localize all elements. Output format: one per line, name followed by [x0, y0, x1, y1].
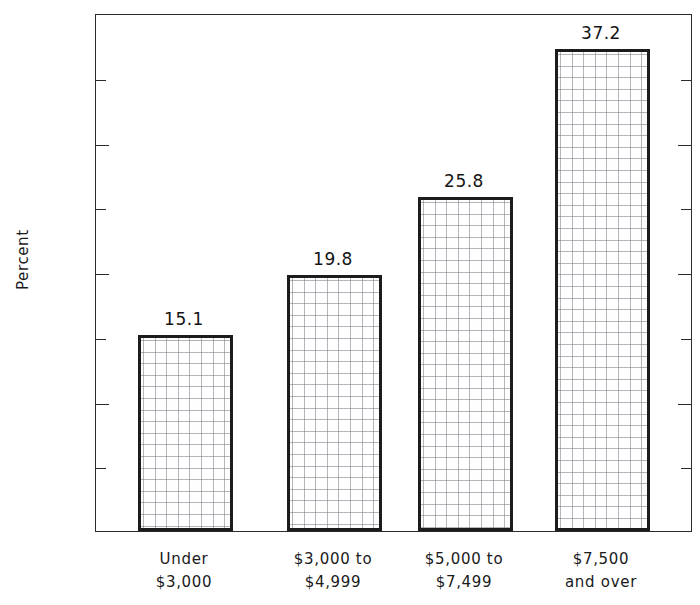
y-tick-minor-15 — [96, 339, 106, 340]
y-tick-right-minor-35 — [681, 80, 691, 81]
y-tick-right-minor-15 — [681, 339, 691, 340]
y-tick-minor-5 — [96, 468, 106, 469]
y-tick-right-major-10 — [678, 404, 691, 405]
x-category-line-3-0: $7,500 — [565, 548, 637, 571]
x-category-line-0-1: $3,000 — [156, 571, 213, 594]
x-category-line-1-1: $4,999 — [294, 571, 373, 594]
y-tick-minor-25 — [96, 209, 106, 210]
y-tick-right-minor-25 — [681, 209, 691, 210]
y-tick-major-10 — [96, 404, 109, 405]
bar-chart: Percent 40 30 20 10 0 15.1 19.8 25.8 37.… — [0, 0, 700, 605]
y-tick-right-major-30 — [678, 145, 691, 146]
y-tick-minor-35 — [96, 80, 106, 81]
bar-value-label-3: 37.2 — [581, 23, 621, 43]
x-category-line-2-1: $7,499 — [425, 571, 504, 594]
bar-value-label-0: 15.1 — [164, 309, 204, 329]
x-category-line-1-0: $3,000 to — [294, 548, 373, 571]
y-tick-right-minor-5 — [681, 468, 691, 469]
bar-3000-to-4999 — [287, 275, 382, 531]
plot-area — [95, 14, 692, 532]
y-tick-right-major-20 — [678, 274, 691, 275]
x-category-line-3-1: and over — [565, 571, 637, 594]
x-category-line-2-0: $5,000 to — [425, 548, 504, 571]
bar-value-label-1: 19.8 — [313, 249, 353, 269]
y-axis-title: Percent — [14, 229, 32, 290]
y-tick-major-30 — [96, 145, 109, 146]
x-category-label-2: $5,000 to $7,499 — [425, 548, 504, 594]
x-category-line-0-0: Under — [156, 548, 213, 571]
x-category-label-3: $7,500 and over — [565, 548, 637, 594]
bar-under-3000 — [138, 335, 233, 531]
x-category-label-0: Under $3,000 — [156, 548, 213, 594]
bar-value-label-2: 25.8 — [444, 171, 484, 191]
bar-5000-to-7499 — [418, 197, 513, 531]
x-category-label-1: $3,000 to $4,999 — [294, 548, 373, 594]
bar-7500-and-over — [555, 49, 650, 531]
y-tick-major-20 — [96, 274, 109, 275]
